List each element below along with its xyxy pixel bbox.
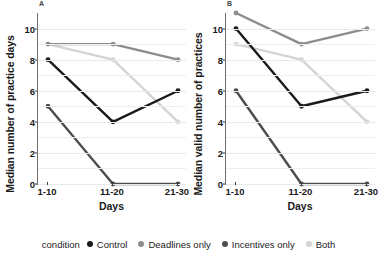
series-line: [236, 44, 367, 122]
x-tick-label: 21-30: [165, 186, 189, 197]
legend-item[interactable]: Both: [306, 239, 336, 250]
legend-item-label: Control: [97, 239, 128, 250]
x-tick-label: 21-30: [354, 186, 378, 197]
chart-legend: condition ControlDeadlines onlyIncentive…: [0, 234, 377, 254]
gridline: [226, 29, 375, 30]
panel-a-y-tick-labels: 0246810: [20, 0, 37, 228]
x-tick-label: 1-10: [37, 186, 56, 197]
legend-marker-icon: [222, 241, 228, 247]
x-tick-mark: [235, 182, 236, 185]
panel-a: Median number of practice days 0246810 A…: [0, 0, 188, 228]
panel-row: Median number of practice days 0246810 A…: [0, 0, 377, 228]
gridline: [226, 91, 375, 92]
panel-a-x-tick-labels: 1-1011-2021-30: [37, 186, 186, 200]
series-line: [236, 29, 367, 107]
gridline: [38, 60, 186, 61]
legend-item-label: Incentives only: [232, 239, 295, 250]
x-tick-mark: [112, 182, 113, 185]
gridline-minor: [38, 75, 186, 76]
legend-marker-icon: [138, 241, 144, 247]
legend-item-label: Deadlines only: [148, 239, 210, 250]
legend-item[interactable]: Incentives only: [222, 239, 295, 250]
panel-a-y-axis-title: Median number of practice days: [0, 0, 20, 228]
x-tick-label: 11-20: [100, 186, 124, 197]
gridline-minor: [38, 168, 186, 169]
gridline: [38, 29, 186, 30]
panel-b-y-tick-labels: 0246810: [208, 0, 225, 228]
gridline: [226, 60, 375, 61]
legend-title: condition: [42, 239, 80, 250]
panel-a-tag: A: [39, 0, 44, 7]
panel-b-plot-wrapper: B 1-1011-2021-30 Days: [225, 0, 377, 228]
legend-marker-icon: [306, 241, 312, 247]
panel-b-x-axis-title: Days: [225, 200, 375, 212]
legend-item-label: Both: [316, 239, 336, 250]
x-tick-mark: [177, 182, 178, 185]
legend-item[interactable]: Control: [87, 239, 128, 250]
gridline: [38, 153, 186, 154]
gridline-minor: [226, 137, 375, 138]
y-tick-label: 10: [212, 23, 223, 34]
legend-item[interactable]: Deadlines only: [138, 239, 210, 250]
panel-b-x-tick-labels: 1-1011-2021-30: [225, 186, 375, 200]
gridline-minor: [38, 137, 186, 138]
gridline-minor: [38, 44, 186, 45]
legend-marker-icon: [87, 241, 93, 247]
gridline: [38, 122, 186, 123]
series-line: [48, 106, 178, 184]
panel-a-plot-area: [37, 13, 186, 185]
gridline-minor: [226, 168, 375, 169]
panel-a-y-axis-title-text: Median number of practice days: [4, 35, 16, 192]
x-tick-label: 11-20: [289, 186, 313, 197]
panel-a-plot-wrapper: A 1-1011-2021-30 Days: [37, 0, 188, 228]
panel-b: Median valid number of practices 0246810…: [188, 0, 377, 228]
gridline: [38, 91, 186, 92]
x-tick-mark: [47, 182, 48, 185]
gridline-minor: [226, 106, 375, 107]
series-point: [234, 11, 239, 16]
gridline: [226, 153, 375, 154]
panel-b-y-axis-title-text: Median valid number of practices: [192, 32, 204, 195]
x-tick-mark: [301, 182, 302, 185]
panel-b-y-axis-title: Median valid number of practices: [188, 0, 208, 228]
panel-b-tag: B: [227, 0, 232, 7]
x-tick-mark: [366, 182, 367, 185]
panel-a-series-lines: [38, 13, 186, 184]
gridline-minor: [38, 106, 186, 107]
gridline: [226, 122, 375, 123]
panel-b-plot-area: [225, 13, 375, 185]
gridline-minor: [226, 44, 375, 45]
gridline-minor: [226, 75, 375, 76]
x-tick-label: 1-10: [225, 186, 244, 197]
panel-b-series-lines: [226, 13, 375, 184]
y-tick-label: 10: [24, 23, 35, 34]
panel-a-x-axis-title: Days: [37, 200, 186, 212]
